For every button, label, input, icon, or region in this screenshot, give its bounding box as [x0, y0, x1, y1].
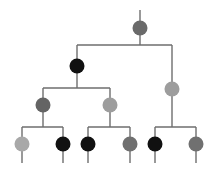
level1-left-node[interactable]	[70, 59, 85, 74]
level1-right-node[interactable]	[165, 82, 180, 97]
leaf-node-3[interactable]	[81, 137, 96, 152]
level2-right-node[interactable]	[103, 98, 118, 113]
tree-diagram-canvas	[0, 0, 217, 171]
root-node[interactable]	[133, 21, 148, 36]
leaf-node-5[interactable]	[148, 137, 163, 152]
tree-diagram-svg	[0, 0, 217, 171]
leaf-node-2[interactable]	[56, 137, 71, 152]
leaf-node-1[interactable]	[15, 137, 30, 152]
nodes-layer	[15, 21, 204, 152]
leaf-node-6[interactable]	[189, 137, 204, 152]
level2-left-node[interactable]	[36, 98, 51, 113]
leaf-node-4[interactable]	[123, 137, 138, 152]
